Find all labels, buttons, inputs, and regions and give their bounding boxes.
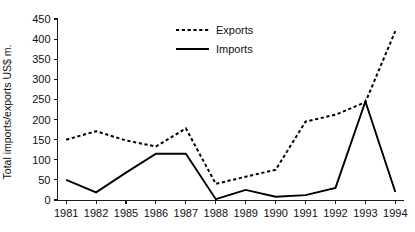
- y-axis-title: Total imports/exports US$ m.: [1, 45, 13, 180]
- y-tick-label: 0: [44, 194, 50, 206]
- y-tick-label: 50: [38, 174, 50, 186]
- line-chart: Total imports/exports US$ m. 05010015020…: [0, 0, 415, 232]
- x-tick-label: 1982: [84, 207, 108, 219]
- y-tick-label: 450: [32, 13, 50, 25]
- y-tick-label: 150: [32, 134, 50, 146]
- legend-label-exports: Exports: [216, 24, 254, 36]
- x-axis-ticks: 1981198219851986198719881989199019911992…: [54, 200, 408, 219]
- x-tick-label: 1981: [54, 207, 78, 219]
- chart-container: Total imports/exports US$ m. 05010015020…: [0, 0, 415, 232]
- y-tick-label: 100: [32, 154, 50, 166]
- x-tick-label: 1994: [383, 207, 407, 219]
- y-tick-label: 200: [32, 114, 50, 126]
- data-series-group: [66, 31, 395, 199]
- y-tick-label: 250: [32, 93, 50, 105]
- x-tick-label: 1989: [233, 207, 257, 219]
- x-tick-label: 1991: [293, 207, 317, 219]
- x-tick-label: 1988: [204, 207, 228, 219]
- series-line-imports: [66, 101, 395, 199]
- x-tick-label: 1985: [114, 207, 138, 219]
- y-tick-label: 300: [32, 73, 50, 85]
- y-tick-label: 350: [32, 53, 50, 65]
- chart-legend: ExportsImports: [176, 24, 254, 55]
- y-axis-ticks: 050100150200250300350400450: [32, 13, 57, 206]
- y-tick-label: 400: [32, 33, 50, 45]
- legend-label-imports: Imports: [216, 43, 253, 55]
- x-tick-label: 1992: [323, 207, 347, 219]
- x-tick-label: 1990: [263, 207, 287, 219]
- x-tick-label: 1993: [353, 207, 377, 219]
- x-tick-label: 1987: [174, 207, 198, 219]
- x-tick-label: 1986: [144, 207, 168, 219]
